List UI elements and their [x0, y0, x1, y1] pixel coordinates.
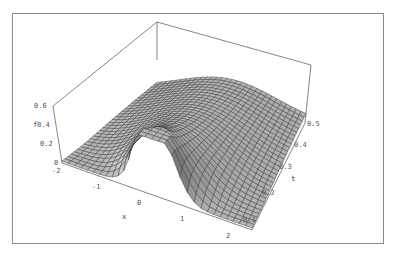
t-tick-0.1: 0.1: [243, 216, 256, 224]
t-tick-0.3: 0.3: [279, 163, 292, 171]
f-axis-label: f: [33, 120, 38, 129]
t-tick-0.2: 0.2: [262, 189, 275, 197]
f-tick-0.2: 0.2: [40, 140, 53, 148]
x-tick-0: 0: [137, 199, 141, 207]
surface-mesh: [62, 77, 306, 228]
x-axis-label: x: [122, 212, 127, 221]
t-axis-label: t: [291, 174, 296, 183]
t-tick-0.4: 0.4: [294, 141, 307, 149]
x-tick-1: 1: [180, 215, 184, 223]
f-tick-0: 0: [54, 159, 58, 167]
t-tick-0.5: 0.5: [307, 120, 320, 128]
f-tick-0.4: 0.4: [37, 121, 50, 129]
f-tick-0.6: 0.6: [34, 102, 47, 110]
x-tick-2: 2: [226, 232, 230, 240]
x-tick--2: -2: [52, 167, 60, 175]
surface-plot: 0.6 0.2 0.4 0 f -2 -1 0 1 2 x 0.1 0.2 0.…: [0, 0, 394, 257]
x-tick--1: -1: [92, 183, 100, 191]
